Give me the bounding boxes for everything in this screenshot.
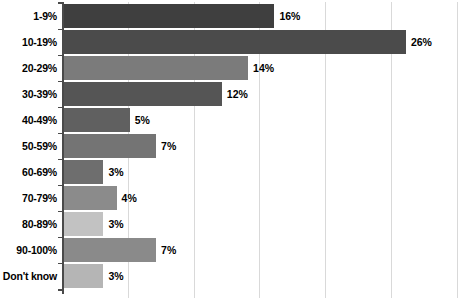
bar[interactable] [64,186,117,210]
bar-row: 10-19%26% [0,29,467,55]
y-axis-tick [58,263,63,264]
category-label: 10-19% [0,29,57,55]
bar-value-label: 3% [108,159,123,185]
bar-fill [64,212,103,236]
y-axis-tick [58,211,63,212]
bar-fill [64,82,222,106]
category-label: 30-39% [0,81,57,107]
category-label: Don't know [0,263,57,289]
bar[interactable] [64,56,248,80]
bar-row: 30-39%12% [0,81,467,107]
category-label: 20-29% [0,55,57,81]
category-label: 70-79% [0,185,57,211]
bar-chart: 1-9%16%10-19%26%20-29%14%30-39%12%40-49%… [0,0,467,301]
bar[interactable] [64,134,156,158]
bar-value-label: 12% [227,81,248,107]
bar-fill [64,30,406,54]
bar-fill [64,264,103,288]
bar-row: 1-9%16% [0,3,467,29]
axis-cap-top [58,2,64,4]
bar-value-label: 14% [253,55,274,81]
bar[interactable] [64,264,103,288]
bar-value-label: 16% [279,3,300,29]
category-label: 60-69% [0,159,57,185]
category-label: 50-59% [0,133,57,159]
bar-fill [64,4,274,28]
bar-value-label: 4% [122,185,137,211]
bar[interactable] [64,108,130,132]
category-label: 80-89% [0,211,57,237]
y-axis-tick [58,237,63,238]
y-axis-tick [58,55,63,56]
y-axis-tick [58,159,63,160]
bar[interactable] [64,160,103,184]
bar-row: 50-59%7% [0,133,467,159]
bar-fill [64,160,103,184]
y-axis-tick [58,185,63,186]
bar-fill [64,238,156,262]
bar[interactable] [64,4,274,28]
bar-row: 80-89%3% [0,211,467,237]
bar-fill [64,108,130,132]
y-axis-tick [58,29,63,30]
y-axis-tick [58,107,63,108]
bar[interactable] [64,212,103,236]
bar-fill [64,134,156,158]
bar-fill [64,56,248,80]
bar-value-label: 5% [135,107,150,133]
axis-cap-bottom [58,289,64,291]
category-label: 40-49% [0,107,57,133]
bar-row: 60-69%3% [0,159,467,185]
bar-row: 40-49%5% [0,107,467,133]
bar-value-label: 26% [411,29,432,55]
bar[interactable] [64,30,406,54]
bar-row: Don't know3% [0,263,467,289]
bar[interactable] [64,238,156,262]
bar-row: 90-100%7% [0,237,467,263]
category-label: 90-100% [0,237,57,263]
category-label: 1-9% [0,3,57,29]
bar-value-label: 7% [161,237,176,263]
bar-value-label: 3% [108,211,123,237]
bar-fill [64,186,117,210]
bar-value-label: 3% [108,263,123,289]
bar-row: 70-79%4% [0,185,467,211]
bar-value-label: 7% [161,133,176,159]
bar-row: 20-29%14% [0,55,467,81]
y-axis-tick [58,81,63,82]
bar[interactable] [64,82,222,106]
y-axis-tick [58,133,63,134]
